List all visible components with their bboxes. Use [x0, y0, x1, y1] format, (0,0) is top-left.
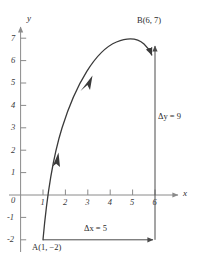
y-tick-6: 6 [11, 56, 15, 65]
y-axis-ticks [21, 38, 27, 240]
x-tick-2: 2 [63, 198, 67, 207]
y-tick-1: 1 [11, 168, 15, 177]
y-tick-7: 7 [11, 34, 15, 43]
x-tick-3: 3 [85, 198, 89, 207]
x-tick-5: 5 [130, 198, 134, 207]
delta-y-label: Δy = 9 [158, 112, 181, 121]
y-tick-5: 5 [11, 78, 15, 87]
x-tick-6: 6 [153, 198, 157, 207]
y-tick-neg2: -2 [7, 235, 14, 244]
x-axis-ticks [43, 190, 155, 196]
parametric-curve [43, 39, 152, 240]
delta-x-label: Δx = 5 [84, 224, 107, 233]
y-tick-neg1: -1 [7, 213, 14, 222]
x-axis-label: x [183, 189, 187, 198]
point-label-a: A(1, −2) [32, 243, 61, 252]
y-tick-4: 4 [11, 101, 15, 110]
y-axis-label: y [27, 14, 31, 23]
y-tick-0: 0 [11, 196, 15, 205]
x-tick-4: 4 [108, 198, 112, 207]
y-tick-2: 2 [11, 146, 15, 155]
graph-figure: x y 7 6 5 4 3 2 1 0 -1 -2 1 2 3 4 5 6 B(… [0, 0, 204, 273]
y-tick-3: 3 [11, 123, 15, 132]
point-label-b: B(6, 7) [137, 16, 161, 25]
x-tick-1: 1 [41, 198, 45, 207]
